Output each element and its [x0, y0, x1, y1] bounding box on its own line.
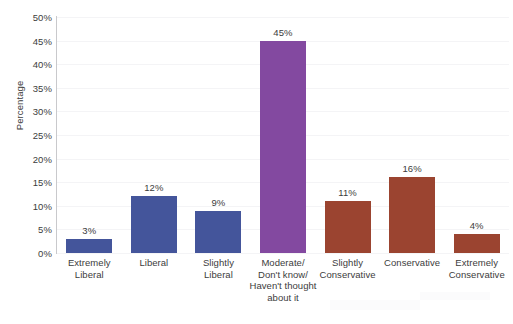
x-axis-label-line: about it [231, 292, 335, 304]
scan-artifact [330, 300, 420, 310]
x-axis-label-line: Haven't thought [231, 280, 335, 292]
x-axis-label-line: Extremely [425, 257, 513, 269]
y-axis-tick-label: 15% [10, 177, 52, 188]
x-axis-label-line: Conservative [425, 269, 513, 281]
bar[interactable] [454, 234, 500, 253]
scan-artifact [420, 292, 490, 300]
y-axis-tick-label: 5% [10, 224, 52, 235]
bar-value-label: 12% [124, 182, 184, 193]
x-axis-label-line: Conservative [296, 269, 400, 281]
cropped-chart-title [0, 0, 513, 3]
y-axis-tick-label: 45% [10, 35, 52, 46]
bar-chart: Percentage 3%12%9%45%11%16%4% 50%45%40%3… [0, 0, 513, 324]
bar-value-label: 3% [59, 225, 119, 236]
y-axis-tick-label: 20% [10, 153, 52, 164]
bar-value-label: 45% [253, 27, 313, 38]
plot-area: 3%12%9%45%11%16%4% [57, 17, 509, 253]
y-axis-tick-label: 50% [10, 12, 52, 23]
x-axis-label-line: Liberal [37, 269, 141, 281]
bar-value-label: 4% [447, 220, 507, 231]
bar[interactable] [195, 211, 241, 253]
bar-value-label: 11% [318, 187, 378, 198]
bar-value-label: 9% [188, 197, 248, 208]
bar-value-label: 16% [382, 163, 442, 174]
bar[interactable] [131, 196, 177, 253]
x-axis-category-label: ExtremelyConservative [425, 257, 513, 280]
bar[interactable] [325, 201, 371, 253]
bar[interactable] [66, 239, 112, 253]
bar[interactable] [260, 41, 306, 253]
y-axis-tick-label: 10% [10, 200, 52, 211]
y-axis-title: Percentage [14, 61, 25, 151]
gridline [57, 17, 509, 18]
gridline [57, 253, 509, 254]
bar[interactable] [389, 177, 435, 253]
